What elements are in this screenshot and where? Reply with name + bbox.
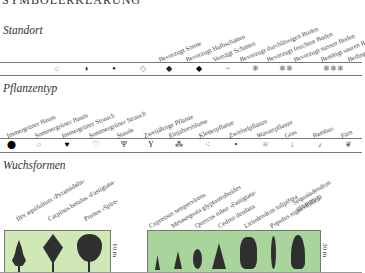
section-title-wuchsformen: Wuchsformen: [3, 159, 66, 171]
scale-label: 10 m: [111, 243, 119, 257]
tree-silhouette-liriodendron: [240, 237, 257, 269]
deciduous-tree-icon: ○: [33, 139, 45, 149]
scale-30m: 30 m: [320, 230, 335, 273]
tree-silhouette-prunus: [77, 234, 102, 262]
label: Prunus ›Spire‹: [83, 197, 120, 222]
evergreen-shrub-icon: ♥: [61, 139, 73, 149]
growth-form-panel-30m: [147, 230, 321, 273]
label-sequoiadendron: Sequoiadendron giganteum: [291, 166, 356, 212]
grass-icon: ↓: [286, 139, 298, 149]
tree-silhouette-cupressus: [155, 255, 160, 270]
tree-silhouette-populus: [271, 236, 276, 269]
annual-icon: ⁂: [173, 139, 185, 149]
climber-icon: ⁖: [201, 139, 213, 149]
scale-10m: 10 m: [110, 230, 125, 273]
divider: [0, 75, 362, 76]
evergreen-tree-icon: ⬤: [5, 139, 17, 149]
shade-icon: ●: [108, 63, 120, 73]
section-title-standort: Standort: [3, 24, 43, 36]
water-plant-icon: ≋: [259, 139, 271, 149]
perennial-icon: Ψ: [118, 139, 130, 149]
tree-silhouette-sequoiadendron: [291, 235, 305, 269]
drop-outline-icon: ◇: [137, 63, 149, 73]
page-title: SYMBOLERKLÄRUNG: [2, 0, 141, 8]
drop-half-icon: ◆: [163, 63, 175, 73]
fern-icon: ❦: [342, 139, 354, 149]
divider: [0, 152, 362, 153]
biennial-icon: Y: [145, 139, 157, 149]
pflanzentyp-icon-row: ⬤ ○ ♥ ♡ Ψ Y ⁂ ⁖ • ≋ ↓ ⸙ ❦: [0, 139, 362, 151]
snowflake-3-icon: ❄❄❄: [319, 63, 347, 73]
tree-silhouette-metasequoia: [174, 251, 182, 269]
snowflake-2-icon: ❄❄: [276, 63, 296, 73]
sun-icon: ☼: [51, 63, 63, 73]
acid-soil-icon: ⌣: [221, 63, 233, 73]
standort-icon-row: ☼ ◑ ● ◇ ◆ ◆ ⌣ ❄ ❄❄ ❄❄❄: [0, 63, 362, 75]
snowflake-icon: ❄: [249, 63, 261, 73]
tree-silhouette-quercus: [193, 249, 202, 269]
growth-form-panel-10m: [4, 230, 111, 273]
tree-silhouette-cedrus: [212, 243, 226, 269]
deciduous-shrub-icon: ♡: [90, 139, 102, 149]
drop-filled-icon: ◆: [193, 63, 205, 73]
section-title-pflanzentyp: Pflanzentyp: [3, 82, 57, 94]
tree-silhouette-carpinus: [43, 234, 63, 264]
label: Bambus: [311, 124, 334, 139]
tree-silhouette-ilex: [12, 240, 26, 266]
half-shade-icon: ◑: [80, 63, 92, 73]
label: Sequoiadendron giganteum: [291, 178, 332, 212]
trunk: [88, 259, 90, 273]
bamboo-icon: ⸙: [314, 139, 326, 149]
bulb-icon: •: [230, 139, 242, 149]
scale-label: 30 m: [321, 243, 329, 257]
